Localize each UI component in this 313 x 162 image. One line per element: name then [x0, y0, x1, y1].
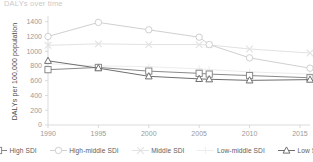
- data-point-marker: [45, 57, 52, 63]
- chart-title: DALYs over time: [4, 0, 63, 8]
- legend-item-low-sdi[interactable]: Low SDI: [278, 146, 313, 155]
- legend-label: Low-middle SDI: [217, 147, 265, 154]
- series-middle-sdi: [45, 41, 313, 57]
- legend-item-high-sdi[interactable]: High SDI: [0, 146, 37, 155]
- data-point-marker: [246, 55, 252, 61]
- chart-legend: High SDIHigh-middle SDIMiddle SDILow-mid…: [0, 142, 313, 158]
- legend-label: Low SDI: [297, 147, 313, 154]
- y-axis-tick-label: 800: [30, 62, 42, 69]
- data-point-marker: [45, 33, 51, 39]
- legend-item-high-middle-sdi[interactable]: High-middle SDI: [50, 146, 119, 155]
- data-point-marker: [146, 27, 152, 33]
- x-axis-tick-label: 2005: [191, 130, 207, 137]
- x-axis-tick-label: 2000: [141, 130, 157, 137]
- legend-item-middle-sdi[interactable]: Middle SDI: [132, 146, 185, 155]
- data-point-marker: [0, 147, 2, 153]
- data-point-marker: [95, 19, 101, 25]
- triangle-marker-icon: [278, 146, 295, 155]
- legend-label: High-middle SDI: [69, 147, 119, 154]
- y-axis-tick-label: 0: [38, 121, 42, 128]
- legend-label: High SDI: [9, 147, 36, 154]
- y-axis-tick-label: 1400: [26, 18, 42, 25]
- chart-plot-area: DALYs per 100,000 population 02004006008…: [0, 10, 313, 140]
- square-marker-icon: [0, 146, 7, 155]
- legend-label: Middle SDI: [151, 147, 184, 154]
- cross-x-marker-icon: [132, 146, 149, 155]
- line-chart: 0200400600800100012001400199019952000200…: [0, 10, 313, 140]
- y-axis-tick-label: 400: [30, 92, 42, 99]
- y-axis-tick-label: 200: [30, 107, 42, 114]
- series-low-sdi: [45, 57, 313, 83]
- series-line: [48, 44, 310, 53]
- series-line: [48, 22, 310, 68]
- x-axis-tick-label: 2010: [242, 130, 258, 137]
- y-axis-tick-label: 1000: [26, 48, 42, 55]
- data-point-marker: [307, 65, 313, 71]
- data-point-marker: [45, 67, 51, 73]
- series-high-middle-sdi: [45, 19, 313, 71]
- data-point-marker: [206, 41, 212, 47]
- y-axis-tick-label: 1200: [26, 33, 42, 40]
- data-point-marker: [55, 147, 61, 153]
- x-axis-tick-label: 2015: [292, 130, 308, 137]
- data-point-marker: [196, 34, 202, 40]
- circle-marker-icon: [50, 146, 67, 155]
- data-point-marker: [203, 147, 210, 154]
- legend-item-low-middle-sdi[interactable]: Low-middle SDI: [197, 146, 264, 155]
- y-axis-tick-label: 600: [30, 77, 42, 84]
- y-axis-label: DALYs per 100,000 population: [11, 12, 18, 132]
- x-axis-tick-label: 1995: [91, 130, 107, 137]
- series-line: [48, 61, 310, 81]
- plus-marker-icon: [197, 146, 214, 155]
- x-axis-tick-label: 1990: [40, 130, 56, 137]
- series-low-middle-sdi: [45, 60, 313, 77]
